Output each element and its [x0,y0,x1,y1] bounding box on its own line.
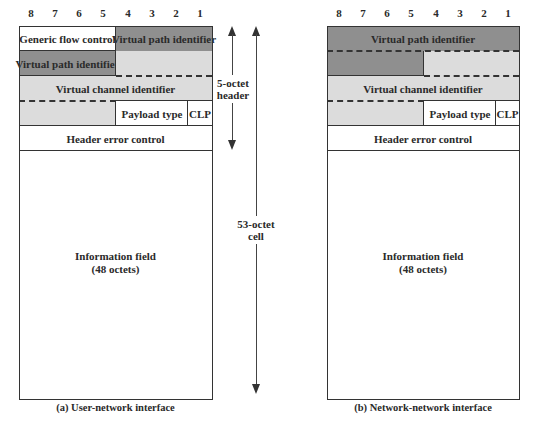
dashed-divider [327,100,424,102]
bit-number: 4 [116,7,140,19]
uni-information-field: Information field (48 octets) [19,250,212,276]
bit-number: 1 [496,7,520,19]
dashed-divider [116,75,212,77]
bit-number: 4 [424,7,448,19]
bit-number: 8 [327,7,351,19]
bit-number: 2 [164,7,188,19]
info-label: Information field [327,250,519,263]
divider [424,100,519,101]
nni-cell-outline [327,26,520,400]
divider [19,75,116,76]
bit-number: 3 [140,7,164,19]
arrow-shaft [256,34,257,386]
info-size-label: (48 octets) [327,263,519,276]
bit-number: 8 [19,7,43,19]
uni-cell-outline [19,26,213,400]
bit-number: 2 [472,7,496,19]
divider [327,75,424,76]
dashed-divider [19,100,116,102]
nni-information-field: Information field (48 octets) [327,250,519,276]
bit-number: 6 [67,7,91,19]
arrow-down-icon [252,384,260,394]
divider [19,50,116,51]
divider [116,100,212,101]
bit-number: 5 [91,7,115,19]
divider [423,51,424,76]
divider [423,101,424,126]
bit-number: 7 [351,7,375,19]
info-size-label: (48 octets) [19,263,212,276]
arrow-down-icon [228,140,236,150]
bit-number: 5 [399,7,423,19]
divider [327,150,519,151]
uni-caption: (a) User-network interface [19,402,212,413]
nni-caption: (b) Network-network interface [327,402,519,413]
bit-number: 6 [375,7,399,19]
cell-size-label: 53-octet cell [234,216,278,244]
divider [115,101,116,126]
header-size-label: 5-octet header [214,75,252,103]
info-label: Information field [19,250,212,263]
bit-number: 7 [43,7,67,19]
bit-number: 3 [448,7,472,19]
divider [115,26,116,76]
divider [495,101,496,126]
dashed-divider [424,75,519,77]
divider [19,150,212,151]
bit-number: 1 [188,7,212,19]
divider [187,101,188,126]
